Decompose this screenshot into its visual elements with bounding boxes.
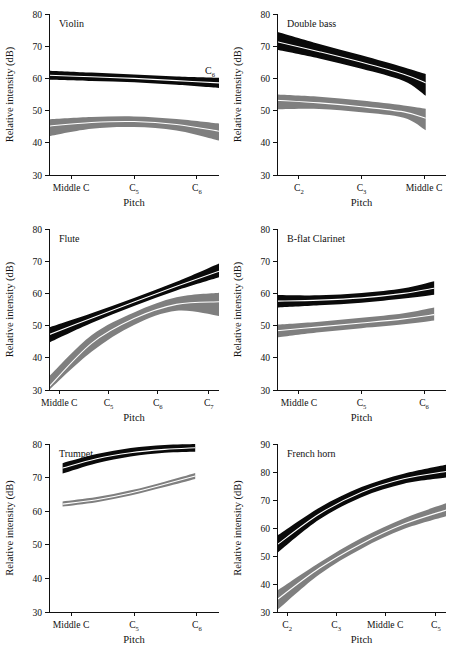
x-axis-title: Pitch — [123, 634, 145, 645]
panel-double-bass: 304050607080C2C3Middle CPitchRelative in… — [228, 0, 455, 222]
figure-musical-instrument-intensity: 304050607080Middle CC5C6PitchRelative in… — [0, 0, 455, 659]
y-tick-label: 50 — [32, 105, 42, 116]
y-tick-label: 70 — [260, 256, 270, 267]
y-tick-label: 70 — [32, 256, 42, 267]
x-tick-label: C3 — [357, 182, 367, 195]
panel-flute: 304050607080Middle CC5C6C7PitchRelative … — [0, 215, 228, 437]
y-tick-label: 80 — [32, 9, 42, 20]
x-tick-label: C5 — [104, 397, 114, 410]
panel-title: Double bass — [287, 18, 336, 29]
x-tick-label: Middle C — [281, 397, 318, 408]
band-pianissimo — [49, 116, 219, 140]
x-tick-label: C5 — [431, 619, 441, 632]
y-tick-label: 50 — [32, 320, 42, 331]
x-axis-title: Pitch — [123, 412, 145, 423]
panel-french-horn: 30405060708090C2C3Middle CC5PitchRelativ… — [228, 430, 455, 659]
y-tick-label: 40 — [260, 352, 270, 363]
y-tick-label: 60 — [32, 288, 42, 299]
x-tick-label: C6 — [192, 619, 202, 632]
y-tick-label: 30 — [32, 607, 42, 618]
x-tick-label: C6 — [192, 182, 202, 195]
y-tick-label: 70 — [260, 41, 270, 52]
panel-trumpet: 304050607080Middle CC5C6PitchRelative in… — [0, 430, 228, 659]
x-tick-label: C7 — [204, 397, 214, 410]
y-tick-label: 50 — [260, 105, 270, 116]
band-fortissimo — [277, 32, 426, 96]
x-tick-label: C3 — [331, 619, 341, 632]
y-tick-label: 60 — [260, 73, 270, 84]
y-tick-label: 80 — [260, 9, 270, 20]
y-tick-label: 90 — [260, 439, 270, 450]
y-tick-label: 40 — [32, 352, 42, 363]
y-tick-label: 30 — [260, 607, 270, 618]
band-fortissimo — [277, 281, 434, 307]
panel-title: Violin — [59, 18, 84, 29]
x-tick-label: C5 — [129, 182, 139, 195]
panel-title: Trumpet — [59, 448, 93, 459]
panel-violin: 304050607080Middle CC5C6PitchRelative in… — [0, 0, 228, 222]
y-tick-label: 30 — [32, 385, 42, 396]
y-tick-label: 40 — [32, 137, 42, 148]
x-tick-label: C5 — [129, 619, 139, 632]
y-tick-label: 60 — [260, 288, 270, 299]
y-tick-label: 70 — [260, 495, 270, 506]
panel-title: B-flat Clarinet — [287, 233, 345, 244]
x-axis-title: Pitch — [351, 197, 373, 208]
axis-lines — [277, 14, 446, 175]
x-tick-label: Middle C — [367, 619, 404, 630]
y-tick-label: 80 — [260, 224, 270, 235]
x-tick-label: Middle C — [41, 397, 78, 408]
y-axis-title: Relative intensity (dB) — [232, 261, 244, 357]
x-tick-label: Middle C — [406, 182, 443, 193]
y-tick-label: 30 — [32, 170, 42, 181]
axis-lines — [277, 229, 446, 390]
y-tick-label: 40 — [260, 137, 270, 148]
x-axis-title: Pitch — [123, 197, 145, 208]
y-tick-label: 70 — [32, 41, 42, 52]
x-tick-label: C5 — [357, 397, 367, 410]
x-tick-label: C6 — [419, 397, 429, 410]
x-tick-label: Middle C — [53, 182, 90, 193]
panel-title: French horn — [287, 448, 336, 459]
y-tick-label: 80 — [32, 439, 42, 450]
y-axis-title: Relative intensity (dB) — [4, 261, 16, 357]
y-tick-label: 60 — [260, 523, 270, 534]
y-axis-title: Relative intensity (dB) — [232, 46, 244, 142]
y-axis-title: Relative intensity (dB) — [4, 480, 16, 576]
x-tick-label: C2 — [282, 619, 292, 632]
axis-lines — [49, 14, 219, 175]
y-tick-label: 80 — [32, 224, 42, 235]
band-pianissimo — [49, 293, 219, 390]
x-tick-label: C6 — [153, 397, 163, 410]
y-tick-label: 40 — [260, 579, 270, 590]
y-tick-label: 30 — [260, 385, 270, 396]
x-tick-label: C2 — [294, 182, 304, 195]
band-fortissimo — [49, 71, 219, 88]
centerline-fortissimo — [277, 471, 446, 544]
x-axis-title: Pitch — [351, 412, 373, 423]
y-tick-label: 80 — [260, 467, 270, 478]
y-tick-label: 60 — [32, 73, 42, 84]
y-tick-label: 40 — [32, 573, 42, 584]
x-tick-label: Middle C — [53, 619, 90, 630]
panel-b-flat-clarinet: 304050607080Middle CC5C6PitchRelative in… — [228, 215, 455, 437]
y-axis-title: Relative intensity (dB) — [4, 46, 16, 142]
y-tick-label: 50 — [260, 320, 270, 331]
y-tick-label: 30 — [260, 170, 270, 181]
panel-title: Flute — [59, 233, 80, 244]
y-axis-title: Relative intensity (dB) — [232, 480, 244, 576]
y-tick-label: 70 — [32, 472, 42, 483]
y-tick-label: 50 — [32, 539, 42, 550]
y-tick-label: 50 — [260, 551, 270, 562]
band-pianissimo — [277, 308, 434, 338]
annotation-pitch-label: C6 — [205, 65, 216, 78]
x-axis-title: Pitch — [351, 634, 373, 645]
y-tick-label: 60 — [32, 506, 42, 517]
